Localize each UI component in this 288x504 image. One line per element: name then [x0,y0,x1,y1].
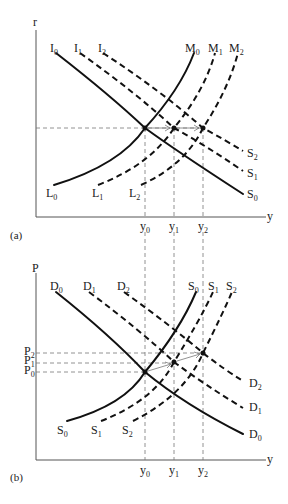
panel-b-equilibrium-1 [172,360,177,365]
panel-b-tick-y0: y0 [140,463,150,479]
panel-b-x-axis-label: y [267,452,273,466]
label-I1: I1 [74,41,82,57]
economics-diagram: r y I0 I1 I2 M0 M1 M2 L0 L1 L2 S2 [0,0,288,504]
panel-b-tick-y1: y1 [169,463,179,479]
panel-a-curve-M2 [141,53,238,185]
panel-b-curve-D1 [89,292,243,408]
panel-a-curve-I2 [103,53,243,151]
label-D2-right: D2 [249,376,262,392]
panel-a-y-axis-label: r [33,15,37,29]
label-S1: S1 [247,166,258,182]
panel-b-equilibrium-0 [143,370,148,375]
panel-a-label: (a) [10,229,23,242]
panel-a-x-axis-label: y [267,209,273,223]
label-S2-b: S2 [226,279,237,295]
panel-a-curve-M0 [54,53,194,185]
label-S2-b-low: S2 [122,423,133,439]
panel-b-label: (b) [10,471,23,484]
label-D0: D0 [50,279,63,295]
panel-a-curve-I1 [80,53,243,171]
label-S1-b-low: S1 [91,423,102,439]
label-S0: S0 [247,187,258,203]
label-S0-b-low: S0 [57,423,68,439]
label-I0: I0 [50,41,58,57]
label-D0-right: D0 [249,427,262,443]
label-I2: I2 [98,41,106,57]
label-D1-right: D1 [249,400,262,416]
label-M0: M0 [185,41,200,57]
label-M2: M2 [229,41,244,57]
panel-b-y-axis-label: P [32,261,39,275]
panel-b-tick-y2: y2 [198,463,208,479]
label-S2: S2 [247,146,258,162]
panel-b-equilibrium-2 [201,351,206,356]
panel-b-curve-S2 [133,292,232,421]
label-M1: M1 [208,41,223,57]
panel-a: r y I0 I1 I2 M0 M1 M2 L0 L1 L2 S2 [10,15,273,242]
label-S0-b: S0 [188,279,199,295]
label-L0: L0 [46,186,57,202]
label-D2: D2 [117,279,130,295]
panel-a-equilibrium-0 [143,126,148,131]
label-L1: L1 [92,186,103,202]
panel-a-equilibrium-1 [172,126,177,131]
label-L2: L2 [129,186,140,202]
label-D1: D1 [83,279,96,295]
panel-b: P y D0 D1 D2 S0 S1 S2 S0 S1 S [10,261,273,484]
label-S1-b: S1 [208,279,219,295]
panel-a-equilibrium-2 [201,126,206,131]
